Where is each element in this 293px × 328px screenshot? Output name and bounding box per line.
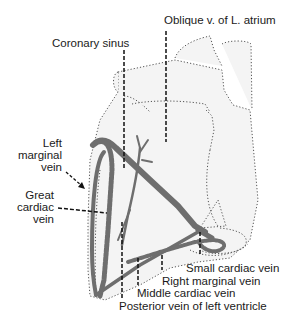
label-right-marginal-vein: Right marginal vein [162, 275, 260, 287]
label-coronary-sinus: Coronary sinus [52, 37, 129, 49]
label-great-cardiac-vein-line2: cardiac [17, 201, 54, 213]
label-great-cardiac-vein-line1: Great [25, 189, 54, 201]
label-left-marginal-vein-line2: marginal [18, 149, 62, 161]
left-marginal-arrow [66, 172, 85, 189]
label-oblique-vein: Oblique v. of L. atrium [164, 14, 276, 26]
label-middle-cardiac-vein: Middle cardiac vein [137, 287, 235, 299]
label-small-cardiac-vein: Small cardiac vein [186, 262, 279, 274]
label-left-marginal-vein-line1: Left [43, 137, 62, 149]
label-posterior-vein-lv: Posterior vein of left ventricle [119, 300, 267, 312]
cardiac-veins-diagram: Oblique v. of L. atrium Coronary sinus L… [0, 0, 293, 328]
label-left-marginal-vein-line3: vein [41, 161, 62, 173]
label-great-cardiac-vein-line3: vein [33, 213, 54, 225]
